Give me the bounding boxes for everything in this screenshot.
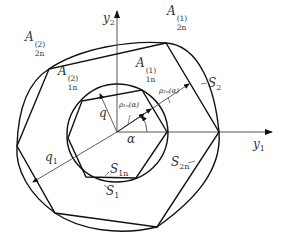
rho1n-ray-marker2 [117,114,144,132]
rho1n-leader [128,115,130,124]
alpha-arc [142,116,147,132]
label-a2n-2: A(2)2n [25,31,45,58]
label-alpha: α [127,133,135,145]
y2-axis-label: y2 [103,12,115,27]
s1n-leader [105,172,109,176]
label-q1: q1 [45,151,58,166]
s2-leader [201,83,207,84]
label-s2: S2 [208,77,221,92]
outer-curve-s2 [17,42,219,231]
diagram-canvas: y2 y1 A(1)2n A(2)2n A(1)1n A(2)1n S2 S1n… [0,0,283,241]
label-rho1n: ρ₁ₙ(α) [119,102,139,109]
label-a2n-1: A(1)2n [167,5,187,32]
label-q: q [99,107,107,119]
label-a1n-1: A(1)1n [136,57,156,84]
y1-axis-label: y1 [253,138,265,153]
label-s1n: S1n [110,163,128,178]
label-rho2n: ρ₂ₙ(α) [159,88,179,95]
label-a1n-2: A(2)1n [58,65,78,92]
rho2n-leader [168,97,170,103]
label-s1: S1 [106,185,119,200]
label-s2n: S2n [171,156,189,171]
